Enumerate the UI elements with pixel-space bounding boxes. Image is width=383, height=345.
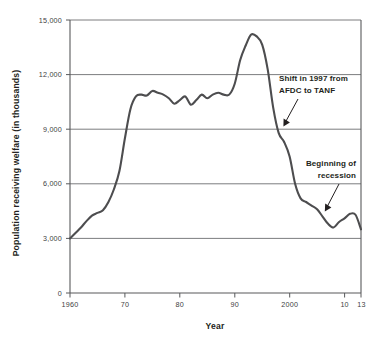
x-tick-marks <box>70 293 361 298</box>
recession-annotation: Beginning of recession <box>306 159 356 212</box>
y-tick-labels: 15,000 12,000 9,000 6,000 3,000 0 <box>39 16 62 298</box>
shift-annotation: Shift in 1997 from AFDC to TANF <box>279 74 348 127</box>
xtick-label-1990: 90 <box>231 300 239 309</box>
ytick-label-15000: 15,000 <box>39 16 62 25</box>
axes-group <box>70 20 361 293</box>
x-axis-title: Year <box>206 321 225 331</box>
ytick-label-3000: 3,000 <box>43 234 62 243</box>
ytick-label-9000: 9,000 <box>43 125 62 134</box>
recession-annotation-line2: recession <box>318 171 356 180</box>
x-tick-labels: 1960 70 80 90 2000 10 13 <box>62 300 366 309</box>
shift-annotation-arrow-line <box>286 99 299 122</box>
xtick-label-2013: 13 <box>357 300 365 309</box>
xtick-label-2010: 10 <box>340 300 348 309</box>
ytick-label-6000: 6,000 <box>43 179 62 188</box>
xtick-label-1980: 80 <box>176 300 184 309</box>
ytick-label-0: 0 <box>58 289 62 298</box>
xtick-label-2000: 2000 <box>281 300 298 309</box>
shift-annotation-line1: Shift in 1997 from <box>279 74 348 83</box>
welfare-population-chart: 15,000 12,000 9,000 6,000 3,000 0 1960 7… <box>0 0 383 345</box>
gridlines-group <box>70 20 361 238</box>
y-axis-title: Population receiving welfare (in thousan… <box>11 70 21 257</box>
xtick-label-1960: 1960 <box>62 300 79 309</box>
recession-annotation-arrow-line <box>327 184 339 207</box>
y-tick-marks <box>66 20 70 293</box>
recession-annotation-line1: Beginning of <box>306 159 356 168</box>
xtick-label-1970: 70 <box>121 300 129 309</box>
welfare-population-line <box>70 34 361 238</box>
ytick-label-12000: 12,000 <box>39 70 62 79</box>
chart-canvas: 15,000 12,000 9,000 6,000 3,000 0 1960 7… <box>0 0 383 345</box>
shift-annotation-line2: AFDC to TANF <box>279 86 335 95</box>
